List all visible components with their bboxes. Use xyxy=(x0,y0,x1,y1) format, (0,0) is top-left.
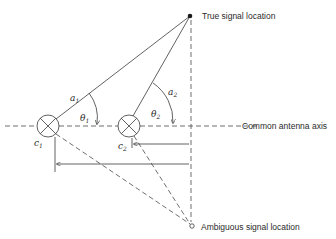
ambiguous-signal-dot-icon xyxy=(190,224,194,228)
antenna-2-icon xyxy=(118,115,140,137)
label-a1: a1 xyxy=(70,93,79,104)
label-c2: c2 xyxy=(118,141,127,152)
theta1-arc-icon xyxy=(89,93,97,124)
ray-antenna2-true xyxy=(133,16,190,116)
label-a2: a2 xyxy=(168,87,177,98)
label-theta2: θ2 xyxy=(151,109,160,120)
antenna-axis-label: Common antenna axis xyxy=(242,121,327,131)
true-signal-dot-icon xyxy=(188,14,193,19)
antenna-1-icon xyxy=(37,115,59,137)
ambiguous-signal-label: Ambiguous signal location xyxy=(201,222,300,232)
true-signal-label: True signal location xyxy=(202,11,276,21)
ray-antenna2-ambiguous xyxy=(134,136,190,224)
interferometer-diagram: a1 θ1 a2 θ2 c1 c2 True signal location C… xyxy=(0,0,336,239)
label-theta1: θ1 xyxy=(80,113,89,124)
label-c1: c1 xyxy=(34,138,43,149)
